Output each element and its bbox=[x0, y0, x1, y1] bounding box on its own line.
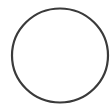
canvas bbox=[0, 0, 112, 110]
circle-outline-icon bbox=[0, 0, 112, 110]
circle-shape bbox=[12, 9, 108, 103]
